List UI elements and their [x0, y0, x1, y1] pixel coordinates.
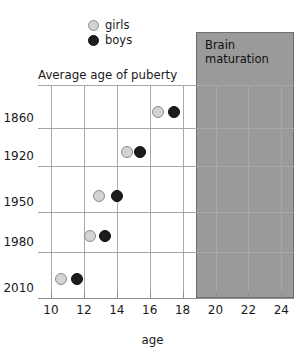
x-tick-label-10: 10 — [43, 303, 58, 317]
vertical-gridline — [216, 85, 217, 298]
x-tick-label-14: 14 — [109, 303, 124, 317]
legend-label-girls: girls — [105, 19, 129, 32]
x-tick-mark — [150, 291, 151, 299]
x-tick-label-16: 16 — [142, 303, 157, 317]
vertical-gridline — [183, 85, 184, 298]
data-point-boys-1860 — [168, 106, 180, 118]
legend-label-boys: boys — [105, 34, 132, 47]
data-point-girls-2010 — [55, 273, 67, 285]
x-axis-ticks: 1012141618202224 — [0, 303, 305, 323]
y-tick-label-1950: 1950 — [3, 196, 34, 209]
legend-swatch-boys-icon — [88, 35, 99, 46]
data-point-boys-2010 — [71, 273, 83, 285]
y-tick-label-1860: 1860 — [3, 112, 34, 125]
x-tick-mark — [51, 291, 52, 299]
x-tick-mark — [84, 291, 85, 299]
data-point-girls-1950 — [93, 190, 105, 202]
vertical-gridline — [150, 85, 151, 298]
x-tick-mark — [183, 291, 184, 299]
data-point-boys-1980 — [99, 230, 111, 242]
data-point-boys-1920 — [134, 146, 146, 158]
legend-item-girls: girls — [88, 18, 158, 33]
data-point-boys-1950 — [111, 190, 123, 202]
puberty-age-scatter-chart: Brain maturation girls boys Average age … — [0, 0, 305, 361]
data-point-girls-1920 — [121, 146, 133, 158]
x-tick-label-20: 20 — [208, 303, 223, 317]
data-point-girls-1860 — [152, 106, 164, 118]
x-tick-mark — [248, 291, 249, 299]
x-tick-label-12: 12 — [76, 303, 91, 317]
chart-title: Average age of puberty — [38, 68, 177, 82]
vertical-gridline — [84, 85, 85, 298]
brain-maturation-label: Brain maturation — [205, 38, 275, 66]
legend-item-boys: boys — [88, 33, 158, 48]
vertical-gridline — [248, 85, 249, 298]
y-tick-label-1920: 1920 — [3, 150, 34, 163]
horizontal-gridline — [38, 128, 294, 129]
horizontal-gridline — [38, 166, 294, 167]
x-tick-label-22: 22 — [241, 303, 256, 317]
vertical-gridline — [51, 85, 52, 298]
chart-legend: girls boys — [88, 18, 158, 48]
plot-area — [38, 85, 294, 298]
y-tick-label-2010: 2010 — [3, 282, 34, 295]
data-point-girls-1980 — [84, 230, 96, 242]
x-tick-mark — [117, 291, 118, 299]
x-axis-line — [38, 298, 294, 299]
x-axis-label: age — [0, 333, 305, 347]
horizontal-gridline — [38, 252, 294, 253]
x-tick-label-24: 24 — [274, 303, 289, 317]
x-tick-mark — [216, 291, 217, 299]
horizontal-gridline — [38, 212, 294, 213]
horizontal-gridline — [38, 85, 294, 86]
vertical-gridline — [281, 85, 282, 298]
x-tick-mark — [281, 291, 282, 299]
y-tick-label-1980: 1980 — [3, 236, 34, 249]
legend-swatch-girls-icon — [88, 20, 99, 31]
x-tick-label-18: 18 — [175, 303, 190, 317]
